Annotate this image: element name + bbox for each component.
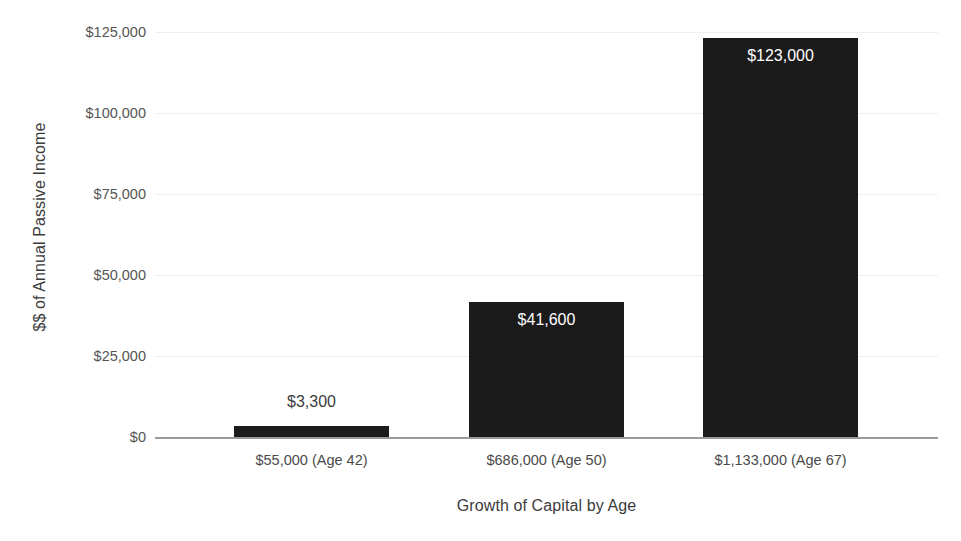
gridline-125000 bbox=[155, 32, 938, 33]
x-tick-label-2: $1,133,000 (Age 67) bbox=[663, 452, 898, 468]
y-axis-title: $$ of Annual Passive Income bbox=[31, 27, 49, 427]
x-axis-title: Growth of Capital by Age bbox=[155, 497, 938, 515]
y-tick-label-0: $0 bbox=[0, 429, 146, 445]
y-tick-label-100000: $100,000 bbox=[0, 105, 146, 121]
bar-series-0[interactable] bbox=[234, 426, 389, 437]
y-tick-label-50000: $50,000 bbox=[0, 267, 146, 283]
x-axis-baseline bbox=[155, 437, 938, 439]
bar-chart: $$ of Annual Passive Income $125,000 $10… bbox=[0, 0, 961, 541]
bar-value-label-1: $41,600 bbox=[469, 311, 624, 329]
y-tick-label-125000: $125,000 bbox=[0, 24, 146, 40]
clipped-chart-title bbox=[155, 0, 938, 1]
bar-value-label-2: $123,000 bbox=[703, 47, 858, 65]
bar-series-2[interactable] bbox=[703, 38, 858, 437]
bar-value-label-0: $3,300 bbox=[234, 393, 389, 411]
y-tick-label-25000: $25,000 bbox=[0, 348, 146, 364]
x-tick-label-0: $55,000 (Age 42) bbox=[194, 452, 429, 468]
x-tick-label-1: $686,000 (Age 50) bbox=[429, 452, 664, 468]
y-tick-label-75000: $75,000 bbox=[0, 186, 146, 202]
